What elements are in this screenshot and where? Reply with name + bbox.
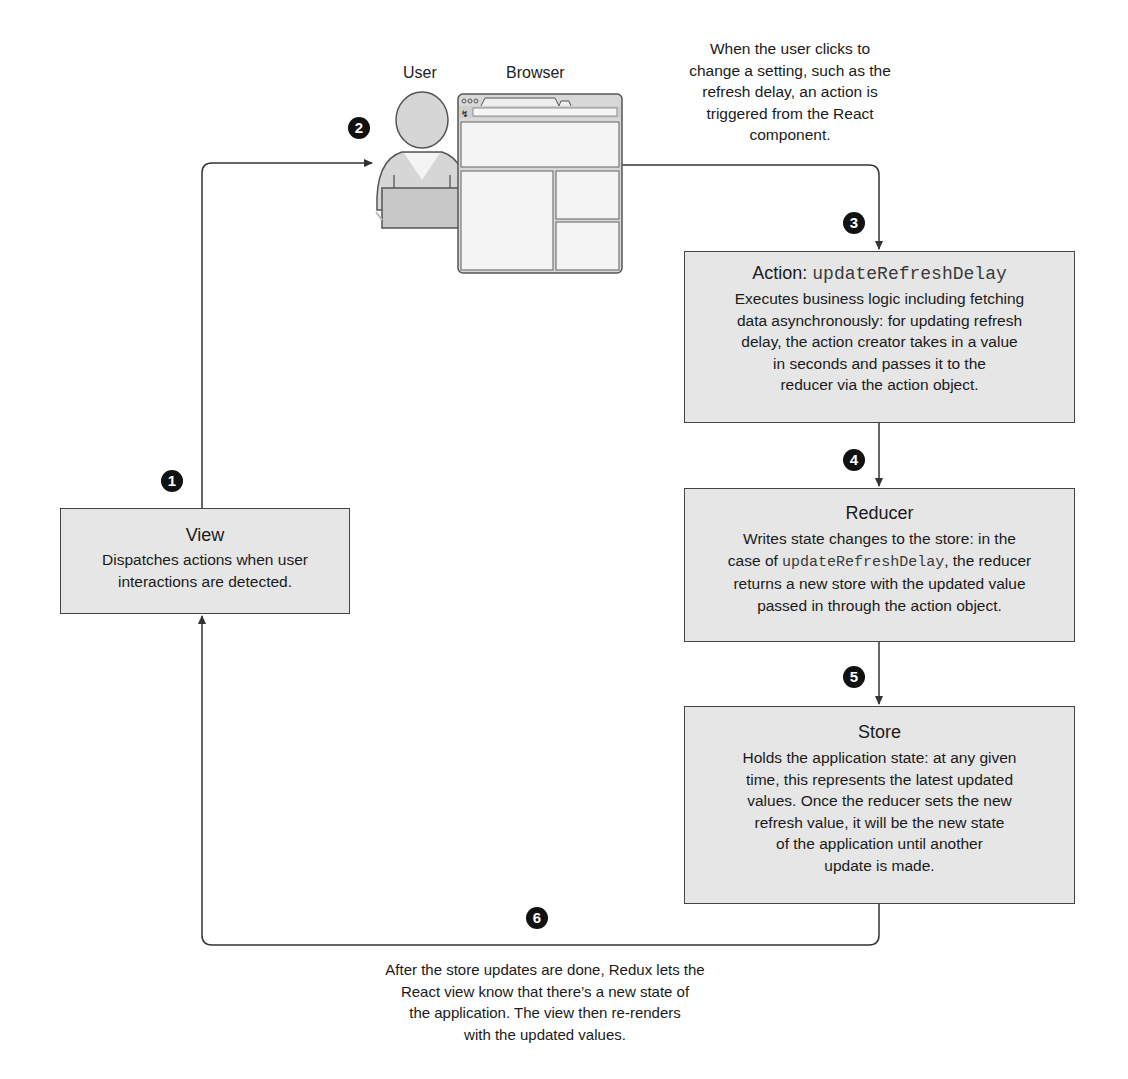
- step-badge-2: 2: [348, 117, 370, 139]
- top-caption-line: When the user clicks to: [640, 38, 940, 60]
- bottom-caption-line: After the store updates are done, Redux …: [300, 959, 790, 981]
- top-caption-line: change a setting, such as the: [640, 60, 940, 82]
- reducer-box: Reducer Writes state changes to the stor…: [684, 488, 1075, 642]
- action-text-line: Executes business logic including fetchi…: [695, 288, 1064, 310]
- store-text-line: refresh value, it will be the new state: [695, 812, 1064, 834]
- reducer-text-line: returns a new store with the updated val…: [695, 573, 1064, 595]
- store-text-line: update is made.: [695, 855, 1064, 877]
- top-caption-line: refresh delay, an action is: [640, 81, 940, 103]
- step-badge-4: 4: [843, 449, 865, 471]
- browser-window: ↯: [457, 93, 623, 274]
- reducer-text-line: case of updateRefreshDelay, the reducer: [695, 550, 1064, 574]
- action-text-line: reducer via the action object.: [695, 374, 1064, 396]
- action-box: Action: updateRefreshDelay Executes busi…: [684, 251, 1075, 423]
- action-box-description: Executes business logic including fetchi…: [685, 288, 1074, 396]
- store-box-title: Store: [685, 721, 1074, 743]
- reducer-box-title: Reducer: [685, 502, 1074, 524]
- view-box: View Dispatches actions when user intera…: [60, 508, 350, 614]
- action-title-code: updateRefreshDelay: [812, 264, 1006, 284]
- browser-label: Browser: [506, 64, 565, 82]
- browser-icon: ↯: [457, 93, 623, 274]
- store-text-line: of the application until another: [695, 833, 1064, 855]
- bottom-caption-line: with the updated values.: [300, 1024, 790, 1046]
- reducer-text-line: passed in through the action object.: [695, 595, 1064, 617]
- reducer-line2-prefix: case of: [728, 552, 782, 569]
- view-text-line: interactions are detected.: [71, 571, 339, 593]
- top-caption: When the user clicks to change a setting…: [640, 38, 940, 146]
- reducer-line2-code: updateRefreshDelay: [782, 554, 944, 571]
- store-box: Store Holds the application state: at an…: [684, 706, 1075, 904]
- reducer-line2-suffix: , the reducer: [944, 552, 1031, 569]
- store-text-line: Holds the application state: at any give…: [695, 747, 1064, 769]
- reducer-box-description: Writes state changes to the store: in th…: [685, 528, 1074, 616]
- action-text-line: data asynchronously: for updating refres…: [695, 310, 1064, 332]
- store-text-line: time, this represents the latest updated: [695, 769, 1064, 791]
- action-title-prefix: Action:: [752, 263, 812, 283]
- view-text-line: Dispatches actions when user: [71, 549, 339, 571]
- step-badge-3: 3: [843, 212, 865, 234]
- reducer-text-line: Writes state changes to the store: in th…: [695, 528, 1064, 550]
- top-caption-line: triggered from the React: [640, 103, 940, 125]
- step-badge-1: 1: [161, 470, 183, 492]
- view-box-title: View: [61, 524, 349, 546]
- bottom-caption-line: the application. The view then re-render…: [300, 1002, 790, 1024]
- store-box-description: Holds the application state: at any give…: [685, 747, 1074, 876]
- action-text-line: in seconds and passes it to the: [695, 353, 1064, 375]
- browser-to-action-arrow: [622, 165, 879, 249]
- bottom-caption: After the store updates are done, Redux …: [300, 959, 790, 1045]
- step-badge-5: 5: [843, 666, 865, 688]
- step-badge-6: 6: [526, 907, 548, 929]
- bottom-caption-line: React view know that there’s a new state…: [300, 981, 790, 1003]
- view-to-user-arrow: [202, 163, 372, 508]
- action-box-title: Action: updateRefreshDelay: [685, 262, 1074, 285]
- store-text-line: values. Once the reducer sets the new: [695, 790, 1064, 812]
- top-caption-line: component.: [640, 124, 940, 146]
- view-box-description: Dispatches actions when user interaction…: [61, 549, 349, 592]
- svg-text:↯: ↯: [461, 109, 469, 119]
- action-text-line: delay, the action creator takes in a val…: [695, 331, 1064, 353]
- user-label: User: [403, 64, 437, 82]
